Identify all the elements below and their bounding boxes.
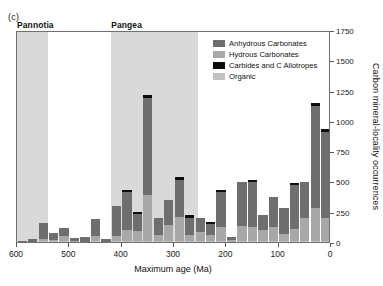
bar-segment <box>154 241 163 242</box>
bar-segment <box>269 197 278 227</box>
bar-segment <box>321 241 329 242</box>
legend-swatch <box>213 62 225 69</box>
bar-segment <box>196 232 205 241</box>
bar-segment <box>248 182 257 227</box>
bar-segment <box>216 241 225 242</box>
bar-segment <box>248 227 257 241</box>
x-axis-label: Maximum age (Ma) <box>16 264 330 274</box>
bar-segment <box>258 241 267 242</box>
bar-segment <box>216 192 225 227</box>
bar-segment <box>311 106 320 208</box>
x-tick <box>330 243 331 247</box>
bar-220ma <box>216 190 225 242</box>
bar-segment <box>185 218 194 235</box>
bar-segment <box>206 235 215 242</box>
bar-segment <box>237 226 246 241</box>
y-tick-label: 1750 <box>336 27 354 36</box>
y-tick <box>330 61 334 62</box>
bar-segment <box>112 206 121 236</box>
bar-400ma <box>122 190 131 242</box>
bar-segment <box>122 192 131 230</box>
bar-240ma <box>206 222 215 242</box>
bar-segment <box>91 241 100 242</box>
bar-segment <box>248 241 257 242</box>
bar-segment <box>175 180 184 218</box>
bar-460ma <box>91 219 100 242</box>
bar-segment <box>28 239 37 242</box>
x-tick <box>278 243 279 247</box>
bar-segment <box>143 98 152 195</box>
bar-segment <box>133 214 142 232</box>
bar-segment <box>311 208 320 240</box>
legend-label: Carbides and C Allotropes <box>229 61 317 70</box>
y-tick-label: 1500 <box>336 57 354 66</box>
bar-segment <box>39 223 48 239</box>
bar-520ma <box>59 228 68 242</box>
y-tick-label: 1000 <box>336 117 354 126</box>
bar-420ma <box>112 206 121 242</box>
bar-segment <box>311 241 320 242</box>
bar-segment <box>143 241 152 242</box>
bar-segment <box>18 241 27 242</box>
x-tick-label: 500 <box>61 249 75 259</box>
x-tick-label: 600 <box>9 249 23 259</box>
y-tick <box>330 152 334 153</box>
bar-segment <box>164 241 173 242</box>
bar-260ma <box>196 218 205 242</box>
y-axis: 02505007501000125015001750 <box>330 31 360 243</box>
legend-swatch <box>213 73 225 80</box>
x-tick <box>173 243 174 247</box>
bar-segment <box>258 215 267 230</box>
bar-segment <box>321 132 329 218</box>
bar-60ma <box>300 182 309 242</box>
bar-segment <box>49 241 58 242</box>
bar-segment <box>122 241 131 242</box>
bar-180ma <box>237 182 246 242</box>
band-pannotia <box>17 32 48 242</box>
bar-20ma <box>321 129 329 242</box>
bar-segment <box>300 218 309 241</box>
bar-480ma <box>80 237 89 242</box>
bar-segment <box>206 241 215 242</box>
bar-segment <box>91 219 100 236</box>
bar-segment <box>39 241 48 242</box>
y-tick-label: 500 <box>336 178 349 187</box>
x-tick-label: 0 <box>328 249 333 259</box>
bar-320ma <box>164 200 173 242</box>
bar-segment <box>279 241 288 242</box>
bar-40ma <box>311 103 320 242</box>
bar-segment <box>143 195 152 241</box>
bar-500ma <box>70 238 79 242</box>
bar-440ma <box>101 239 110 242</box>
bar-200ma <box>227 237 236 242</box>
y-axis-label: Carbon mineral-locality occurrences <box>369 31 383 243</box>
bar-segment <box>112 241 121 242</box>
bar-300ma <box>175 177 184 242</box>
bar-segment <box>216 227 225 242</box>
bar-segment <box>237 241 246 242</box>
x-tick-label: 400 <box>114 249 128 259</box>
bar-segment <box>133 241 142 242</box>
supercontinent-label-pannotia: Pannotia <box>17 20 54 30</box>
bar-segment <box>185 241 194 242</box>
bar-segment <box>279 208 288 234</box>
bar-segment <box>59 241 68 242</box>
legend-item: Organic <box>213 71 317 81</box>
bar-segment <box>279 234 288 241</box>
bar-segment <box>59 228 68 235</box>
bar-segment <box>300 182 309 218</box>
bar-560ma <box>39 223 48 242</box>
bar-segment <box>196 241 205 242</box>
bar-340ma <box>154 218 163 242</box>
bar-120ma <box>269 197 278 242</box>
x-tick <box>121 243 122 247</box>
bar-segment <box>258 230 267 241</box>
bar-segment <box>196 218 205 232</box>
bar-80ma <box>290 183 299 242</box>
chart-legend: Anhydrous CarbonatesHydrous CarbonatesCa… <box>213 38 317 82</box>
legend-item: Anhydrous Carbonates <box>213 38 317 48</box>
y-tick <box>330 182 334 183</box>
figure-panel-c: (c) PannotiaPangea Anhydrous CarbonatesH… <box>0 0 383 286</box>
y-tick-label: 0 <box>336 239 340 248</box>
bar-280ma <box>185 215 194 242</box>
